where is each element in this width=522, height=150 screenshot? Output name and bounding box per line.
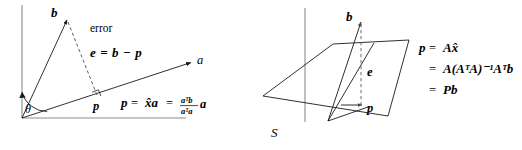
label-vector-a: a — [197, 53, 203, 67]
label-error-word: error — [90, 22, 113, 34]
equation-xhat-a: x̂a — [144, 95, 159, 110]
fraction-numerator: aᵀb — [181, 95, 193, 105]
label-subspace-S: S — [271, 125, 278, 140]
equation-lhs-p: p — [120, 95, 128, 110]
projection-equation-group: p = Ax̂ = A(AᵀA)⁻¹Aᵀb = Pb — [418, 40, 514, 97]
right-panel-projection-onto-subspace: b e p S p = Ax̂ = A(AᵀA)⁻¹Aᵀb = Pb — [261, 0, 522, 150]
label-error-equation: e = b − p — [90, 45, 142, 60]
label-angle-theta: θ — [25, 102, 31, 116]
angle-theta-arrowhead — [19, 92, 25, 98]
left-panel-projection-onto-line: b a p θ error e = b − p p = x̂a = aᵀb aᵀ… — [0, 0, 261, 150]
projection-figure: b a p θ error e = b − p p = x̂a = aᵀb aᵀ… — [0, 0, 522, 150]
label-error-e: e — [367, 65, 373, 79]
plane-baseline-origin-to-p — [328, 107, 368, 121]
equation-equals-2: = — [166, 96, 173, 110]
label-vector-b: b — [346, 9, 353, 24]
label-point-p: p — [366, 101, 373, 115]
equation-line1-rhs: Ax̂ — [442, 40, 459, 55]
equation-line1-lhs: p — [418, 40, 426, 55]
fraction-trailing-a: a — [200, 97, 206, 111]
equation-line2-rhs: A(AᵀA)⁻¹Aᵀb — [442, 61, 514, 76]
label-vector-b: b — [51, 5, 58, 20]
label-point-p: p — [92, 99, 99, 113]
vector-b-line — [328, 22, 361, 121]
equation-line3-equals: = — [429, 83, 436, 97]
fraction-denominator: aᵀa — [181, 106, 193, 116]
equation-line3-rhs: Pb — [443, 82, 458, 97]
subspace-plane-S — [263, 40, 409, 116]
equation-line1-equals: = — [429, 41, 436, 55]
projection-equation-group: p = x̂a = aᵀb aᵀa a — [120, 95, 206, 116]
equation-equals-1: = — [131, 96, 138, 110]
equation-line2-equals: = — [429, 62, 436, 76]
